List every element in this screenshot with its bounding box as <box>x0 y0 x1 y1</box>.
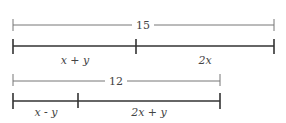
segment-diagrams: 15 x + y 2x 12 x - y 2x + y <box>0 0 286 123</box>
total-length-bracket: 12 <box>13 74 220 88</box>
diagram-1: 15 x + y 2x <box>13 19 274 67</box>
total-label: 15 <box>136 19 150 32</box>
total-length-bracket: 15 <box>13 19 274 32</box>
segment-label-2: 2x + y <box>130 106 167 119</box>
segment-line: x - y 2x + y <box>13 93 220 119</box>
segment-line: x + y 2x <box>13 39 274 67</box>
total-label: 12 <box>109 75 123 88</box>
segment-label-1: x - y <box>34 106 58 119</box>
segment-label-1: x + y <box>61 54 90 67</box>
segment-label-2: 2x <box>197 54 212 67</box>
diagram-2: 12 x - y 2x + y <box>13 74 220 119</box>
